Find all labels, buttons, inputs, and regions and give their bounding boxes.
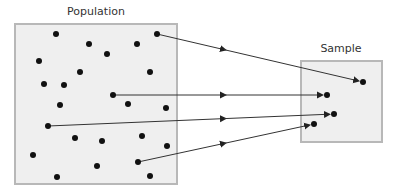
population-dot	[164, 143, 170, 149]
arrow-line	[224, 125, 308, 143]
population-dot	[135, 159, 141, 165]
population-dot	[45, 123, 51, 129]
population-dot	[154, 31, 160, 37]
population-dot	[53, 31, 59, 37]
population-dot	[110, 92, 116, 98]
population-box	[15, 24, 177, 184]
population-dot	[72, 135, 78, 141]
population-dot	[41, 81, 47, 87]
population-dot	[125, 101, 131, 107]
sample-label: Sample	[320, 42, 361, 55]
sample-dot	[331, 111, 337, 117]
population-dot	[77, 69, 83, 75]
population-dot	[147, 69, 153, 75]
sample-dot	[360, 79, 366, 85]
population-dot	[163, 105, 169, 111]
population-dot	[61, 82, 67, 88]
sample-box	[301, 61, 382, 142]
population-label: Population	[67, 5, 125, 18]
sample-dot	[324, 92, 330, 98]
sampling-diagram	[0, 0, 394, 195]
population-dot	[139, 133, 145, 139]
population-dot	[147, 173, 153, 179]
sample-dot	[311, 121, 317, 127]
population-dot	[94, 163, 100, 169]
population-dot	[30, 152, 36, 158]
population-dot	[134, 41, 140, 47]
population-dot	[36, 58, 42, 64]
population-dot	[54, 174, 60, 180]
population-dot	[99, 138, 105, 144]
population-dot	[57, 102, 63, 108]
population-dot	[104, 51, 110, 57]
population-dot	[86, 41, 92, 47]
